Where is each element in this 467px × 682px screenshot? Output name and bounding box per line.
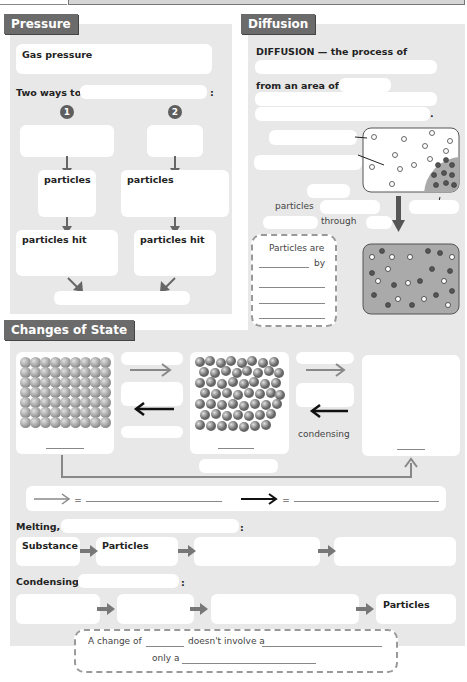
liquid-gas-arrows <box>304 362 354 418</box>
diffusion-after-diagram <box>362 243 462 317</box>
note-part1: A change of <box>88 636 142 646</box>
melting-chain-arrows <box>0 540 467 560</box>
pressure-result-box[interactable] <box>54 291 190 305</box>
black-arrow-blank <box>294 501 439 502</box>
diffusion-right-input[interactable] <box>409 200 459 214</box>
gas-box <box>362 355 460 456</box>
arrow-legend-box <box>26 486 446 511</box>
condensing-input[interactable] <box>78 574 179 588</box>
gray-arrow-legend-icon <box>33 492 73 506</box>
particles-hit-1-label: particles hit <box>22 234 87 245</box>
note-blank-state <box>146 646 184 647</box>
two-ways-label: Two ways to <box>16 87 81 98</box>
through-left-input[interactable] <box>263 216 318 229</box>
gray-arrow-blank <box>86 501 222 502</box>
melting-label: Melting, <box>16 521 60 532</box>
diffusion-input-4[interactable] <box>255 107 430 121</box>
liquid-blank <box>218 448 254 449</box>
through-hand-label: through <box>321 216 356 226</box>
liquid-particles <box>194 356 286 438</box>
diffusion-input-3[interactable] <box>255 92 437 106</box>
title-left-segment <box>0 0 67 5</box>
label-box-3[interactable] <box>307 184 350 198</box>
condensing-chain-arrows <box>0 600 467 620</box>
condensing-colon: : <box>181 577 185 588</box>
diffusion-period: . <box>430 108 434 119</box>
pressure-tab: Pressure <box>4 14 78 34</box>
gray-arrow-equals: = <box>74 494 82 505</box>
through-right-input[interactable] <box>366 216 392 229</box>
diffusion-down-arrow <box>392 196 406 236</box>
note-blank-change <box>262 646 382 647</box>
melting-colon: : <box>240 522 244 533</box>
melting-input[interactable] <box>61 519 239 533</box>
solid-liquid-arrows <box>128 362 178 418</box>
particles-note-by: by <box>314 258 325 268</box>
two-ways-colon: : <box>210 87 214 98</box>
particles-2-label: particles <box>127 174 174 185</box>
sublimation-arrow <box>60 455 420 485</box>
label-box-2[interactable] <box>254 155 362 170</box>
note-part2: doesn't involve a <box>188 636 265 646</box>
black-arrow-legend-icon <box>240 492 280 506</box>
note-blank-only <box>182 663 316 664</box>
from-area-label: from an area of <box>256 80 339 91</box>
diffusion-input-2[interactable] <box>339 78 391 92</box>
note-blank-3 <box>259 303 325 304</box>
changes-tab: Changes of State <box>4 320 134 340</box>
title-right-segment <box>68 0 465 5</box>
gas-pressure-label: Gas pressure <box>22 49 92 60</box>
solid-blank <box>46 448 84 449</box>
solid-liquid-input-3[interactable] <box>121 426 183 438</box>
note-blank-1 <box>259 267 309 268</box>
diffusion-input-1[interactable] <box>255 60 437 74</box>
label-box-1[interactable] <box>269 130 357 145</box>
particles-hand-label: particles <box>275 201 314 211</box>
particles-note-line1: Particles are <box>269 243 324 253</box>
gas-blank <box>397 449 425 450</box>
condensing-hand-label: condensing <box>298 429 350 439</box>
note-blank-2 <box>259 287 325 288</box>
page-title-bar <box>0 0 467 6</box>
note-part3: only a <box>152 653 179 663</box>
particles-input[interactable] <box>320 200 380 214</box>
two-ways-input[interactable] <box>80 85 207 99</box>
particles-hit-2-label: particles hit <box>140 234 205 245</box>
diffusion-definition-label: DIFFUSION — the process of <box>256 46 407 57</box>
condensing-label: Condensing <box>16 576 79 587</box>
diffusion-tab: Diffusion <box>241 14 315 34</box>
way-2-number: 2 <box>168 105 182 119</box>
particles-1-label: particles <box>44 174 91 185</box>
solid-particles <box>20 357 110 427</box>
black-arrow-equals: = <box>282 494 290 505</box>
way-1-number: 1 <box>60 105 74 119</box>
note-blank-4 <box>259 318 325 319</box>
